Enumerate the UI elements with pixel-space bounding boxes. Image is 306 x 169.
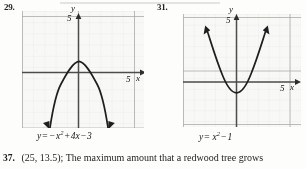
scanned-page: 29. — [0, 0, 306, 169]
eq29-sign1: − — [49, 131, 56, 141]
graph-31-svg — [183, 14, 301, 127]
eq31-term2: 1 — [227, 132, 232, 142]
problem-29-equation: y=−x2+4x−3 — [37, 129, 92, 141]
y-tick-label-29: 5 — [67, 13, 72, 23]
problem-31-number: 31. — [157, 2, 168, 12]
x-axis-label-31: x — [290, 82, 294, 92]
problem-31-equation: y=x2−1 — [199, 130, 232, 142]
problem-29-graph: 5 y 5 x — [22, 11, 144, 128]
x-axis-label-29: x — [136, 73, 140, 83]
eq31-equals: = — [203, 132, 210, 142]
eq29-equals: = — [41, 131, 48, 141]
eq29-term2: 4x — [71, 131, 80, 141]
y-tick-label-31: 5 — [226, 15, 231, 25]
eq29-op2: − — [80, 131, 87, 141]
y-axis-label-31: y — [229, 4, 233, 14]
answer-37-number: 37. — [3, 153, 15, 163]
graph-29-svg — [22, 11, 144, 128]
problem-29: 29. — [0, 0, 153, 148]
problem-31: 31. — [153, 0, 306, 148]
problem-29-number: 29. — [4, 2, 15, 12]
problem-31-graph: 5 y 5 x — [183, 14, 301, 127]
answer-37-text: (25, 13.5); The maximum amount that a re… — [21, 152, 263, 163]
y-axis-label-29: y — [71, 3, 75, 13]
x-tick-label-31: 5 — [280, 83, 285, 93]
eq29-term3: 3 — [87, 131, 92, 141]
x-tick-label-29: 5 — [126, 74, 131, 84]
eq29-op1: + — [63, 131, 70, 141]
answer-line-37: 37. (25, 13.5); The maximum amount that … — [3, 152, 263, 163]
